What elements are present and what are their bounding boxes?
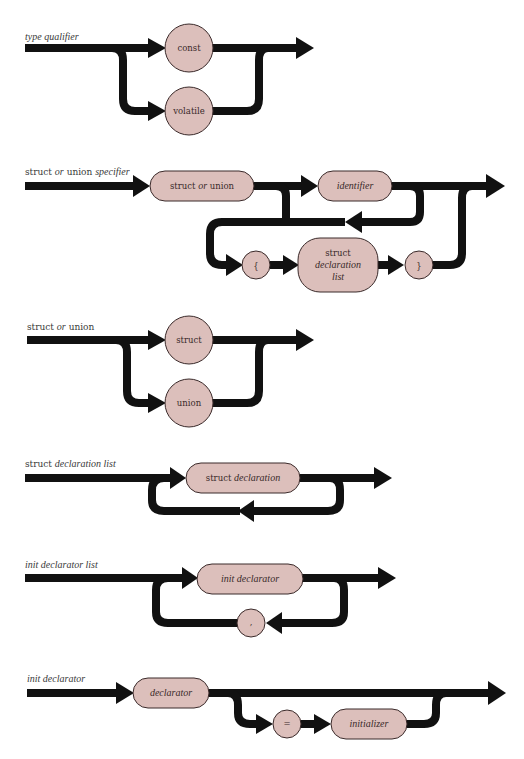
node-label: struct [325, 248, 351, 258]
diagram-type-qualifier: type qualifier const volatile [25, 24, 314, 135]
node-label: struct [176, 335, 202, 345]
node-label: , [250, 617, 253, 627]
node-label: struct or union [170, 180, 235, 191]
arrow-icon [266, 612, 282, 634]
path-line [116, 340, 150, 403]
node-label: union [177, 398, 202, 408]
node-label: } [416, 261, 421, 271]
arrow-icon [283, 255, 299, 275]
path-line [212, 340, 268, 403]
path-line [276, 186, 286, 222]
arrow-icon [256, 714, 273, 734]
node-label: { [253, 261, 258, 271]
syntax-diagrams: type qualifier const volatile struct or … [0, 0, 524, 759]
arrow-icon [148, 101, 166, 121]
arrow-icon [148, 393, 166, 413]
diagram-struct-declaration-list: struct declaration list struct declarati… [25, 458, 392, 522]
node-label: const [177, 43, 201, 53]
arrow-icon [238, 500, 254, 522]
arrow-icon [116, 682, 134, 704]
arrow-icon [148, 330, 166, 350]
arrow-icon [226, 254, 243, 276]
diagram-struct-or-union: struct or union struct union [27, 316, 314, 427]
path-line [404, 693, 446, 724]
node-label: declarator [150, 687, 192, 698]
node-label: init declarator [221, 573, 279, 584]
path-line [212, 48, 268, 111]
diagram-title: type qualifier [25, 31, 79, 42]
diagram-title: struct declaration list [25, 458, 116, 469]
node-label: list [332, 271, 344, 282]
diagram-init-declarator: init declarator declarator = initializer [27, 673, 506, 739]
arrow-icon [182, 567, 198, 589]
arrow-icon [296, 37, 314, 59]
arrow-icon [148, 38, 166, 58]
node-label: volatile [172, 106, 205, 116]
node-label: identifier [337, 180, 374, 191]
arrow-icon [388, 255, 404, 275]
diagram-title: init declarator list [25, 559, 98, 570]
arrow-icon [486, 174, 505, 198]
path-line [228, 693, 258, 724]
node-label: = [283, 719, 290, 729]
node-label: initializer [350, 718, 389, 729]
arrow-icon [378, 567, 396, 589]
arrow-icon [133, 175, 150, 197]
diagram-init-declarator-list: init declarator list init declarator , [25, 559, 396, 637]
node-label: declaration [315, 259, 361, 270]
arrow-icon [374, 467, 392, 489]
arrow-icon [314, 714, 331, 734]
diagram-title: struct or union [27, 321, 95, 332]
diagram-struct-or-union-specifier: struct or union specifier struct or unio… [25, 166, 505, 292]
arrow-icon [170, 467, 186, 489]
arrow-icon [345, 211, 362, 233]
arrow-icon [488, 681, 506, 705]
arrow-icon [296, 329, 314, 351]
node-label: struct declaration [206, 472, 280, 483]
arrow-icon [301, 175, 318, 197]
path-line [112, 48, 150, 111]
diagram-title: struct or union specifier [25, 166, 130, 177]
diagram-title: init declarator [27, 673, 85, 684]
path-line [432, 186, 472, 265]
